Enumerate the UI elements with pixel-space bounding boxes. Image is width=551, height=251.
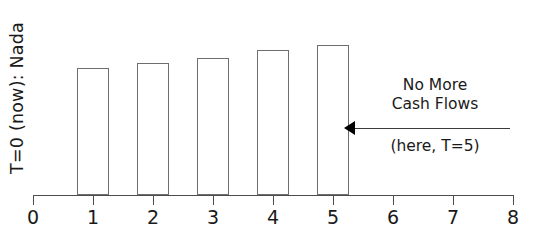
x-axis-tick xyxy=(513,196,514,205)
annotation-line-1: No More xyxy=(375,76,495,95)
x-axis-tick-label: 8 xyxy=(493,206,533,228)
annotation-line-2: Cash Flows xyxy=(375,95,495,114)
y-axis-label: T=0 (now): Nada xyxy=(7,22,27,174)
x-axis-tick xyxy=(273,196,274,205)
x-axis-tick-label: 5 xyxy=(313,206,353,228)
x-axis-tick-label: 2 xyxy=(133,206,173,228)
annotation-heading: No More Cash Flows xyxy=(375,76,495,114)
x-axis-tick xyxy=(93,196,94,205)
x-axis-tick-label: 0 xyxy=(13,206,53,228)
x-axis-tick xyxy=(153,196,154,205)
x-axis-tick xyxy=(333,196,334,205)
annotation-arrow-shaft xyxy=(352,128,510,129)
x-axis-tick xyxy=(213,196,214,205)
x-axis-tick xyxy=(393,196,394,205)
bar xyxy=(197,58,229,195)
bar xyxy=(257,50,289,195)
annotation-arrow-head-icon xyxy=(344,121,355,135)
chart-figure: T=0 (now): Nada 012345678 No More Cash F… xyxy=(0,0,551,251)
y-axis-label-container: T=0 (now): Nada xyxy=(0,0,34,196)
x-axis-tick-label: 3 xyxy=(193,206,233,228)
x-axis-tick-label: 6 xyxy=(373,206,413,228)
x-axis-tick xyxy=(33,196,34,205)
x-axis-tick-label: 1 xyxy=(73,206,113,228)
bar xyxy=(77,68,109,195)
x-axis-tick-label: 4 xyxy=(253,206,293,228)
x-axis-tick xyxy=(453,196,454,205)
annotation-line-3: (here, T=5) xyxy=(370,137,500,155)
bar xyxy=(137,63,169,195)
x-axis-tick-label: 7 xyxy=(433,206,473,228)
